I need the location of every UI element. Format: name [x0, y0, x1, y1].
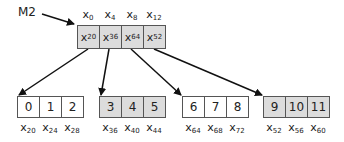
top-address: x12 [143, 8, 165, 22]
leaf-address: x24 [39, 121, 61, 135]
arrow-to-block-2 [131, 49, 181, 95]
leaf-block-3: 9 10 11 [263, 96, 330, 118]
m2-label: M2 [18, 5, 36, 19]
leaf-address: x64 [182, 121, 204, 135]
pointer-cell: x36 [100, 26, 122, 48]
pointer-array-diagram: M2 x0 x4 x8 x12 x20 x36 x64 x52 0 1 2 x2… [0, 0, 344, 142]
leaf-address: x52 [263, 121, 285, 135]
m2-arrow [42, 14, 74, 24]
value-cell: 4 [122, 97, 144, 117]
value-cell: 9 [264, 97, 286, 117]
value-cell: 1 [40, 97, 62, 117]
arrow-to-block-0 [19, 49, 88, 95]
value-cell: 8 [227, 97, 248, 117]
leaf-address: x56 [285, 121, 307, 135]
leaf-block-0: 0 1 2 [17, 96, 84, 118]
value-cell: 7 [205, 97, 227, 117]
leaf-block-1: 3 4 5 [99, 96, 166, 118]
leaf-address: x40 [121, 121, 143, 135]
value-cell: 2 [62, 97, 83, 117]
top-address: x8 [121, 8, 143, 22]
leaf-address: x60 [307, 121, 329, 135]
top-address: x4 [99, 8, 121, 22]
pointer-cell: x20 [78, 26, 100, 48]
arrow-to-block-3 [154, 49, 262, 95]
leaf-address: x28 [61, 121, 83, 135]
value-cell: 11 [308, 97, 329, 117]
value-cell: 3 [100, 97, 122, 117]
value-cell: 0 [18, 97, 40, 117]
value-cell: 10 [286, 97, 308, 117]
top-address: x0 [77, 8, 99, 22]
top-pointer-block: x20 x36 x64 x52 [77, 25, 166, 49]
arrow-to-block-1 [101, 49, 109, 95]
value-cell: 6 [183, 97, 205, 117]
leaf-address: x68 [204, 121, 226, 135]
pointer-cell: x64 [122, 26, 144, 48]
value-cell: 5 [144, 97, 165, 117]
leaf-address: x72 [226, 121, 248, 135]
leaf-address: x20 [17, 121, 39, 135]
leaf-address: x44 [143, 121, 165, 135]
leaf-address: x36 [99, 121, 121, 135]
leaf-block-2: 6 7 8 [182, 96, 249, 118]
pointer-cell: x52 [144, 26, 165, 48]
